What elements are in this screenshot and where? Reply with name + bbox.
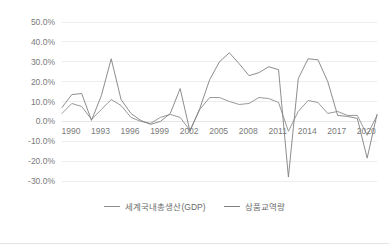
legend-label-trade: 상품교역량 <box>245 200 285 212</box>
x-axis-tick-label: 1990 <box>62 126 81 136</box>
legend-item-gdp[interactable]: 세계국내총생산(GDP) <box>104 200 205 212</box>
y-axis-tick-label: 50.0% <box>31 17 56 27</box>
y-axis-tick-label: 30.0% <box>31 57 56 67</box>
y-axis-tick-label: 20.0% <box>31 77 56 87</box>
x-axis-tick-label: 2008 <box>239 126 258 136</box>
chart-legend: 세계국내총생산(GDP) 상품교역량 <box>0 200 389 212</box>
y-axis-tick-label: -10.0% <box>28 136 55 146</box>
x-axis-tick-label: 2017 <box>327 126 346 136</box>
y-axis-labels-group: 50.0%40.0%30.0%20.0%10.0%0.0%-10.0%-20.0… <box>28 17 55 186</box>
legend-line-marker-gdp <box>104 206 120 207</box>
y-axis-tick-label: -30.0% <box>28 176 55 186</box>
x-axis-tick-label: 1999 <box>150 126 169 136</box>
chart-card: 50.0%40.0%30.0%20.0%10.0%0.0%-10.0%-20.0… <box>0 0 389 244</box>
x-axis-tick-label: 2014 <box>298 126 317 136</box>
y-axis-tick-label: 40.0% <box>31 37 56 47</box>
legend-line-marker-trade <box>224 206 240 207</box>
legend-label-gdp: 세계국내총생산(GDP) <box>125 200 205 212</box>
x-axis-labels-group: 1990199319961999200220052008201120142017… <box>62 126 376 136</box>
legend-item-trade[interactable]: 상품교역량 <box>224 200 285 212</box>
y-axis-tick-label: 0.0% <box>36 116 56 126</box>
series-line-trade <box>62 53 377 177</box>
x-axis-tick-label: 1993 <box>91 126 110 136</box>
y-axis-tick-label: 10.0% <box>31 97 56 107</box>
series-group <box>62 53 377 177</box>
y-axis-tick-label: -20.0% <box>28 156 55 166</box>
x-axis-tick-label: 2005 <box>209 126 228 136</box>
x-axis-tick-label: 1996 <box>121 126 140 136</box>
